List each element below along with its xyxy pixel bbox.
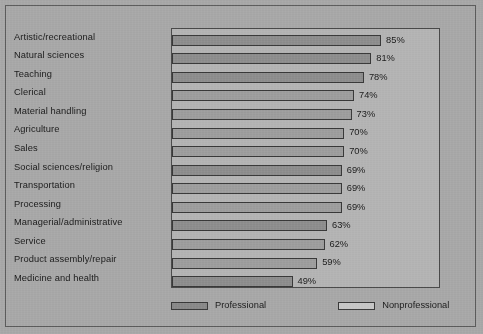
bar-value-label: 69% — [347, 166, 366, 175]
category-label-row: Transportation — [14, 177, 164, 196]
bar-value-label: 70% — [349, 128, 368, 137]
category-label: Social sciences/religion — [14, 163, 113, 172]
bar-series: 85%81%78%74%73%70%70%69%69%69%63%62%59%4… — [172, 29, 439, 287]
chart-legend: Professional Nonprofessional — [171, 298, 451, 314]
category-label: Product assembly/repair — [14, 255, 117, 264]
bar-nonprofessional — [172, 258, 317, 269]
category-label-row: Processing — [14, 195, 164, 214]
category-label-row: Social sciences/religion — [14, 158, 164, 177]
bar-professional — [172, 220, 327, 231]
bar-professional — [172, 53, 371, 64]
bar-value-label: 85% — [386, 36, 405, 45]
bar-professional — [172, 35, 381, 46]
category-label: Teaching — [14, 70, 52, 79]
category-label-row: Natural sciences — [14, 47, 164, 66]
category-label-row: Agriculture — [14, 121, 164, 140]
category-label: Processing — [14, 200, 61, 209]
bar-row: 59% — [172, 254, 439, 273]
category-axis-labels: Artistic/recreational Natural sciences T… — [14, 28, 164, 288]
category-label: Natural sciences — [14, 51, 84, 60]
category-label-row: Teaching — [14, 65, 164, 84]
bar-row: 62% — [172, 235, 439, 254]
category-label-row: Product assembly/repair — [14, 251, 164, 270]
bar-nonprofessional — [172, 90, 354, 101]
category-label-row: Material handling — [14, 102, 164, 121]
chart-figure: Artistic/recreational Natural sciences T… — [0, 0, 483, 334]
bar-value-label: 78% — [369, 73, 388, 82]
bar-nonprofessional — [172, 109, 352, 120]
category-label: Transportation — [14, 181, 75, 190]
bar-row: 73% — [172, 105, 439, 124]
category-label-row: Service — [14, 232, 164, 251]
bar-nonprofessional — [172, 146, 344, 157]
category-label: Sales — [14, 144, 38, 153]
bar-row: 70% — [172, 124, 439, 143]
bar-row: 85% — [172, 31, 439, 50]
bar-value-label: 62% — [330, 240, 349, 249]
bar-value-label: 63% — [332, 221, 351, 230]
category-label-row: Medicine and health — [14, 269, 164, 288]
bar-row: 69% — [172, 161, 439, 180]
bar-nonprofessional — [172, 183, 342, 194]
category-label: Material handling — [14, 107, 87, 116]
bar-value-label: 59% — [322, 258, 341, 267]
bar-row: 63% — [172, 217, 439, 236]
bar-value-label: 69% — [347, 203, 366, 212]
category-label: Artistic/recreational — [14, 33, 95, 42]
bar-row: 49% — [172, 272, 439, 291]
category-label-row: Sales — [14, 139, 164, 158]
bar-row: 81% — [172, 50, 439, 69]
category-label: Medicine and health — [14, 274, 99, 283]
category-label: Agriculture — [14, 125, 60, 134]
bar-professional — [172, 165, 342, 176]
bar-professional — [172, 276, 293, 287]
bar-professional — [172, 72, 364, 83]
legend-label: Nonprofessional — [382, 301, 449, 310]
legend-swatch-icon — [338, 302, 375, 310]
bar-row: 70% — [172, 142, 439, 161]
plot-area: 85%81%78%74%73%70%70%69%69%69%63%62%59%4… — [171, 28, 440, 288]
legend-swatch-icon — [171, 302, 208, 310]
bar-value-label: 70% — [349, 147, 368, 156]
legend-item-nonprofessional: Nonprofessional — [338, 301, 449, 310]
category-label: Service — [14, 237, 46, 246]
legend-label: Professional — [215, 301, 266, 310]
category-label-row: Artistic/recreational — [14, 28, 164, 47]
category-label: Clerical — [14, 88, 46, 97]
bar-row: 69% — [172, 180, 439, 199]
legend-item-professional: Professional — [171, 301, 266, 310]
bar-row: 69% — [172, 198, 439, 217]
category-label-row: Managerial/administrative — [14, 214, 164, 233]
bar-value-label: 73% — [357, 110, 376, 119]
bar-value-label: 81% — [376, 54, 395, 63]
category-label-row: Clerical — [14, 84, 164, 103]
category-label: Managerial/administrative — [14, 218, 122, 227]
bar-nonprofessional — [172, 202, 342, 213]
bar-nonprofessional — [172, 239, 325, 250]
bar-value-label: 49% — [298, 277, 317, 286]
bar-value-label: 69% — [347, 184, 366, 193]
bar-row: 74% — [172, 87, 439, 106]
bar-value-label: 74% — [359, 91, 378, 100]
bar-row: 78% — [172, 68, 439, 87]
bar-nonprofessional — [172, 128, 344, 139]
